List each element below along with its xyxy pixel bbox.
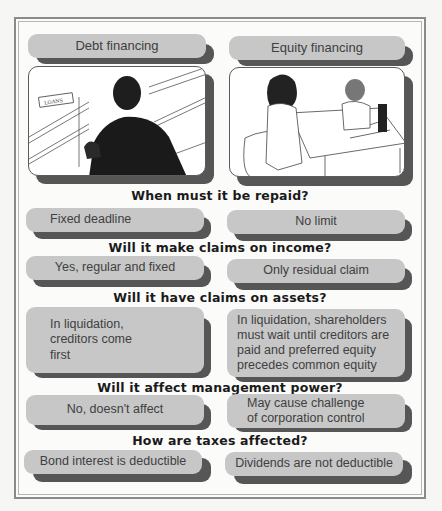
row1-equity-answer: No limit	[227, 210, 405, 234]
question-income: Will it make claims on income?	[14, 240, 426, 255]
row1-debt-answer: Fixed deadline	[26, 208, 204, 232]
business-meeting-icon	[230, 68, 405, 177]
row5-debt-answer: Bond interest is deductible	[24, 450, 202, 474]
row5-equity-answer: Dividends are not deductible	[225, 452, 403, 476]
question-repaid: When must it be repaid?	[14, 188, 426, 203]
person-at-loans-counter-icon: LOANS	[29, 67, 206, 176]
row3-debt-answer: In liquidation, creditors come first	[26, 307, 204, 373]
question-assets: Will it have claims on assets?	[14, 290, 426, 305]
equity-illustration	[229, 67, 405, 177]
row4-equity-answer: May cause challenge of corporation contr…	[227, 394, 405, 428]
row2-debt-answer: Yes, regular and fixed	[26, 256, 204, 280]
question-taxes: How are taxes affected?	[14, 433, 426, 448]
debt-financing-header: Debt financing	[28, 34, 206, 58]
equity-financing-header: Equity financing	[229, 36, 405, 60]
debt-illustration: LOANS	[28, 66, 206, 176]
question-management: Will it affect management power?	[14, 380, 426, 395]
row3-equity-answer: In liquidation, shareholders must wait u…	[227, 309, 405, 377]
row2-equity-answer: Only residual claim	[227, 259, 405, 283]
row4-debt-answer: No, doesn't affect	[26, 395, 204, 425]
